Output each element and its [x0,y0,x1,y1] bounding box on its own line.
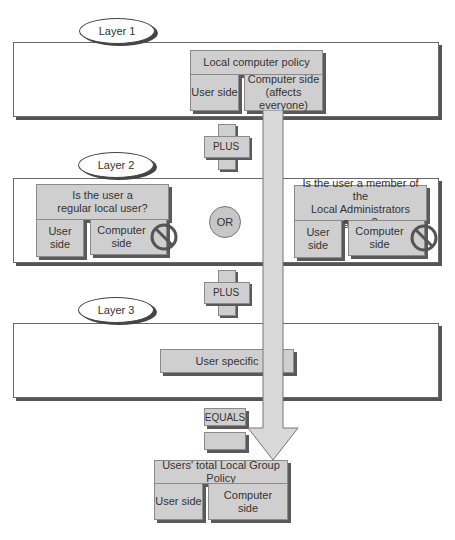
plus-connector-1: PLUS [204,124,248,168]
layer2-left-computer-line2: side [111,237,131,250]
layer1-policy-title: Local computer policy [190,50,323,75]
layer2-left-title: Is the user a regular local user? [36,184,169,220]
layer1-label: Layer 1 [79,18,155,44]
equals-connector: EQUALS [204,408,246,426]
down-arrow-icon [246,110,300,462]
layer2-right-title: Is the user a member of the Local Admini… [294,185,427,221]
layer2-left-user-side: User side [36,219,84,257]
layer2-right-computer-line2: side [369,238,389,251]
plus-connector-2-label: PLUS [204,282,248,302]
layer2-left-computer-line1: Computer [97,224,145,237]
result-computer-line1: Computer [224,489,272,502]
layer2-right-user-side: User side [294,220,342,258]
layer2-left-title-line1: Is the user a [72,189,133,202]
or-connector: OR [209,206,241,238]
layer1-computer-side: Computer side (affects everyone) [244,74,323,111]
layer2-left-title-line2: regular local user? [57,202,148,215]
prohibited-icon [410,224,438,252]
layer3-label: Layer 3 [78,297,154,323]
layer1-user-side: User side [190,74,239,111]
result-title: Users' total Local Group Policy [154,460,288,484]
result-computer-side: Computer side [208,483,288,520]
layer1-computer-side-line1: Computer side [248,73,320,86]
result-computer-line2: side [238,502,258,515]
plus-connector-2: PLUS [204,270,248,314]
prohibited-icon [150,223,178,251]
equals-bar [204,432,246,450]
result-user-side: User side [154,483,203,520]
layer2-label: Layer 2 [78,152,154,178]
layer1-computer-side-line2: (affects everyone) [245,86,322,112]
layer2-right-computer-line1: Computer [355,225,403,238]
plus-connector-1-label: PLUS [204,136,248,156]
layer2-right-title-line1: Is the user a member of the [295,177,426,203]
